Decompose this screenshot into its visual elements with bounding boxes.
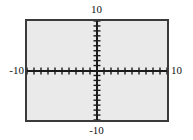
viewing-window-frame [25, 19, 169, 122]
x-max-label: 10 [171, 65, 193, 76]
x-min-label: -10 [1, 65, 24, 76]
y-min-label: -10 [0, 125, 193, 136]
graphing-window-screenshot: 10 -10 -10 10 [0, 0, 193, 140]
axes-graphic [27, 21, 167, 120]
y-max-label: 10 [0, 4, 193, 15]
coordinate-plane [27, 21, 167, 120]
